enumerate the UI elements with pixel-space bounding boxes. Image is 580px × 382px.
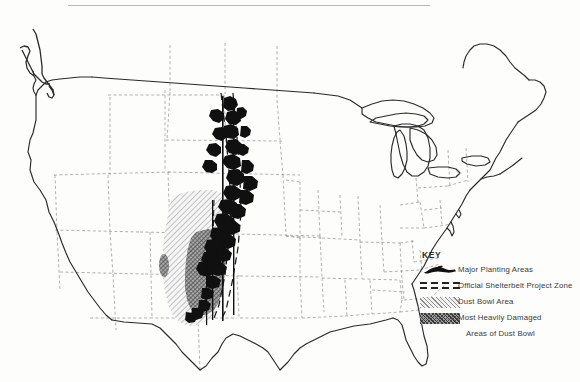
dashed-band-icon xyxy=(420,281,460,294)
diagonal-hatch-icon xyxy=(420,297,460,308)
legend-title: KEY xyxy=(422,250,577,260)
planting-blob-icon xyxy=(420,265,460,276)
legend-row-damaged-cont: Areas of Dust Bowl xyxy=(419,327,577,343)
legend-row-shelterbelt: Official Shelterbelt Project Zone xyxy=(419,279,577,295)
map-page: KEY Major Planting Areas Official Shelte… xyxy=(0,0,580,382)
legend-label-damaged: Most Heavily Damaged xyxy=(458,313,542,322)
legend-label-dustbowl: Dust Bowl Area xyxy=(458,297,513,306)
map-legend: KEY Major Planting Areas Official Shelte… xyxy=(419,250,577,343)
legend-row-planting: Major Planting Areas xyxy=(419,263,577,279)
dense-hatch-icon xyxy=(420,313,460,324)
legend-label-damaged-line2: Areas of Dust Bowl xyxy=(466,329,535,338)
legend-label-planting: Major Planting Areas xyxy=(458,265,533,274)
legend-label-shelterbelt: Official Shelterbelt Project Zone xyxy=(458,281,572,290)
legend-row-damaged: Most Heavily Damaged xyxy=(419,311,577,327)
legend-row-dustbowl: Dust Bowl Area xyxy=(419,295,577,311)
